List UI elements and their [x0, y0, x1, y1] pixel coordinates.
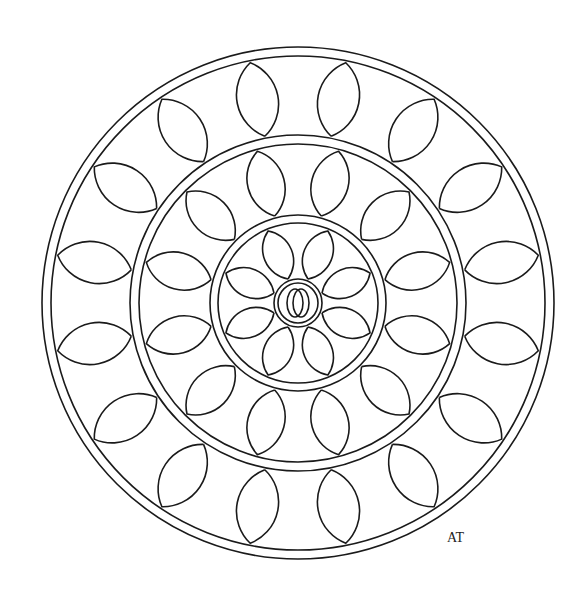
outer-petal [389, 99, 438, 161]
inner-petal [263, 327, 294, 375]
middle-petal [146, 316, 211, 354]
middle-petal [385, 316, 450, 354]
inner-petal [302, 231, 333, 279]
outer-petal [465, 322, 539, 364]
inner-petal [226, 268, 274, 299]
middle-petal [247, 390, 285, 455]
inner-ring-inner [218, 223, 378, 383]
outer-petal [158, 99, 207, 161]
outer-ring-inner [51, 56, 545, 550]
inner-petal [302, 327, 333, 375]
middle-petal [361, 366, 410, 415]
outer-petal [236, 63, 278, 137]
outer-petal [236, 470, 278, 544]
middle-petal [186, 366, 235, 415]
artist-signature: AT [447, 530, 464, 546]
outer-ring-outer [42, 47, 554, 559]
inner-ring-outer [210, 215, 386, 391]
middle-petal [146, 252, 211, 290]
inner-petal [322, 307, 370, 338]
outer-petal [389, 444, 438, 506]
outer-petal [58, 322, 132, 364]
middle-petal [311, 151, 349, 216]
middle-ring-outer [130, 135, 466, 471]
outer-petal [94, 394, 156, 443]
outer-petal [94, 163, 156, 212]
mandala-drawing [0, 0, 573, 607]
inner-petal [263, 231, 294, 279]
middle-petal [186, 191, 235, 240]
middle-petal [247, 151, 285, 216]
outer-petal [439, 163, 501, 212]
outer-petal [58, 241, 132, 283]
middle-petal [311, 390, 349, 455]
middle-petal [361, 191, 410, 240]
middle-petal [385, 252, 450, 290]
inner-petal [322, 268, 370, 299]
core-ring-outer [274, 279, 322, 327]
outer-petal [317, 470, 359, 544]
outer-petal [317, 63, 359, 137]
inner-petal [226, 307, 274, 338]
outer-petal [465, 241, 539, 283]
outer-petal [158, 444, 207, 506]
core-ring-inner [278, 283, 318, 323]
outer-petal [439, 394, 501, 443]
